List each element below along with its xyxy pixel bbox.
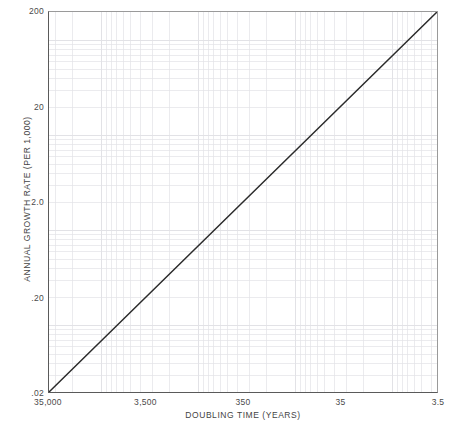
- x-axis-title: DOUBLING TIME (YEARS): [48, 410, 438, 420]
- x-tick-label: 3,500: [134, 397, 157, 407]
- y-tick-label: 20: [34, 102, 44, 112]
- x-tick-label: 350: [235, 397, 250, 407]
- x-axis-tick-labels: 35,0003,500350353.5: [48, 397, 438, 411]
- y-axis-title: ANNUAL GROWTH RATE (PER 1,000): [22, 99, 32, 299]
- y-tick-label: .20: [31, 293, 44, 303]
- x-tick-label: 3.5: [432, 397, 445, 407]
- x-tick-label: 35,000: [34, 397, 62, 407]
- y-tick-label: 200: [29, 6, 44, 16]
- growth-rate-doubling-time-chart: 200202.0.20.02 35,0003,500350353.5 DOUBL…: [0, 0, 449, 426]
- y-tick-label: 2.0: [31, 197, 44, 207]
- x-tick-label: 35: [335, 397, 345, 407]
- data-line: [49, 12, 437, 392]
- plot-area: [48, 11, 438, 393]
